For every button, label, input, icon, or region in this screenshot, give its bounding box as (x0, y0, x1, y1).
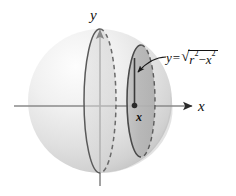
equation-radical: √ r2−x2 (181, 50, 217, 68)
x-axis-label: x (198, 99, 205, 114)
equation-lhs: y (166, 50, 172, 66)
y-axis-label: y (90, 8, 97, 23)
equation-operator: − (198, 52, 205, 67)
equation-term1-exponent: 2 (194, 49, 198, 58)
x-point-label: x (136, 111, 142, 123)
sphere-cross-section-figure: y x x y = √ r2−x2 (0, 0, 236, 196)
equation-equals: = (173, 50, 180, 66)
x-axis-point (132, 103, 138, 109)
equation-term2-exponent: 2 (212, 49, 216, 58)
equation-term2-base: x (206, 52, 212, 67)
equation-radicand: r2−x2 (188, 50, 217, 68)
equation-label: y = √ r2−x2 (166, 50, 218, 68)
